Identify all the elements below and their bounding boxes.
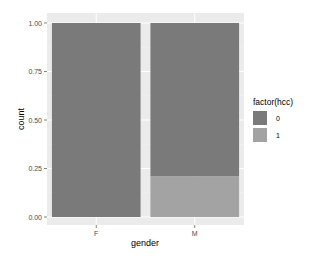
bar-segment-M-0 [150, 23, 239, 176]
x-tick-label: M [192, 230, 198, 237]
y-axis-title: count [16, 107, 26, 130]
stacked-bar-chart: 0.000.250.500.751.00 FM gender count fac… [0, 0, 316, 267]
y-tick-label: 0.75 [28, 68, 42, 75]
y-tick-label: 0.00 [28, 214, 42, 221]
x-axis: FM [94, 225, 198, 237]
legend: factor(hcc) 01 [253, 97, 293, 142]
x-axis-title: gender [131, 238, 159, 248]
y-tick-label: 0.25 [28, 165, 42, 172]
legend-label-1: 1 [276, 132, 280, 139]
bar-segment-F-0 [52, 23, 141, 217]
legend-title: factor(hcc) [253, 97, 293, 107]
y-axis: 0.000.250.500.751.00 [28, 20, 47, 221]
bar-segment-M-1 [150, 176, 239, 217]
legend-entries: 01 [253, 111, 280, 142]
x-tick-label: F [94, 230, 98, 237]
legend-label-0: 0 [276, 115, 280, 122]
y-tick-label: 1.00 [28, 20, 42, 27]
legend-key-0 [253, 111, 267, 125]
y-tick-label: 0.50 [28, 117, 42, 124]
legend-key-1 [253, 128, 267, 142]
